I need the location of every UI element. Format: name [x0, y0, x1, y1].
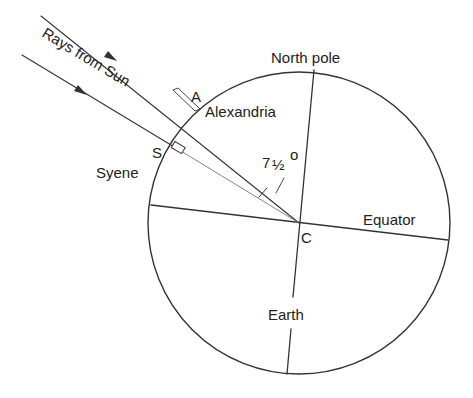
polar-axis-upper: [293, 70, 314, 297]
well-icon: [171, 141, 185, 153]
point-a-label: A: [191, 88, 201, 105]
angle-value-degree: o: [290, 146, 298, 163]
angle-value-main: 7: [262, 154, 270, 171]
alexandria-label: Alexandria: [205, 103, 277, 120]
polar-axis-lower: [287, 329, 291, 374]
rays-label: Rays from Sun: [39, 24, 133, 90]
angle-value-fraction: ½: [272, 156, 285, 173]
equator-label: Equator: [363, 211, 416, 228]
arrow-icon: [74, 85, 87, 95]
north-pole-label: North pole: [271, 49, 340, 66]
syene-label: Syene: [96, 164, 139, 181]
angle-leader: [276, 178, 284, 193]
point-s-label: S: [152, 144, 162, 161]
earth-label: Earth: [268, 306, 304, 323]
eratosthenes-diagram: Rays from Sun A Alexandria S Syene North…: [0, 0, 473, 398]
center-label: C: [301, 229, 312, 246]
